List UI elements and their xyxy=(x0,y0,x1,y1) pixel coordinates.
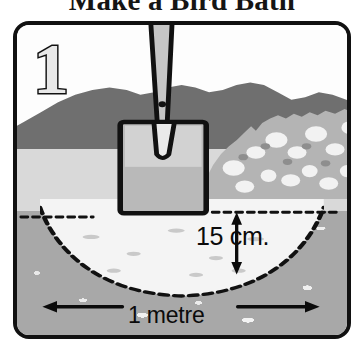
width-dimension-label: 1 metre xyxy=(128,302,205,329)
illustration-panel: 1 xyxy=(13,21,351,339)
spoil-heap xyxy=(202,106,347,199)
page-title: Make a Bird Bath xyxy=(0,0,364,15)
spade-icon xyxy=(109,25,221,248)
depth-dimension-label: 15 cm. xyxy=(196,222,269,251)
step-number: 1 xyxy=(33,33,69,105)
